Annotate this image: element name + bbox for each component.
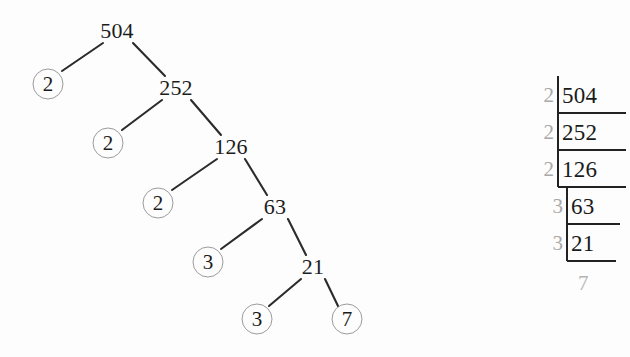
ladder-row: 363 [530,187,630,224]
prime-leaf-2: 2 [33,69,64,100]
tree-edge [325,279,338,306]
ladder-dividend: 252 [562,120,597,143]
tree-node-504: 504 [100,20,134,42]
tree-edge [221,219,262,249]
ladder-divisor: 2 [544,121,555,142]
tree-edge [122,100,162,130]
tree-edge [62,43,103,71]
prime-leaf-label: 3 [252,309,263,330]
tree-edge [133,43,165,76]
ladder-divisor: 3 [553,195,564,216]
ladder-divisor: 2 [544,158,555,179]
ladder-dividend: 126 [562,157,597,180]
tree-node-21: 21 [302,256,324,278]
ladder-row: 2504 [530,76,630,113]
prime-leaf-label: 2 [153,193,164,214]
ladder-dividend: 21 [571,231,595,254]
prime-leaf-label: 2 [43,74,54,95]
tree-node-63: 63 [264,196,286,218]
tree-edge [172,159,217,190]
prime-leaf-label: 7 [342,309,353,330]
tree-node-126: 126 [214,136,248,158]
ladder-dividend: 63 [571,194,595,217]
division-ladder: 2504225221263633217 [530,76,630,316]
tree-node-252: 252 [159,77,193,99]
ladder-final-quotient: 7 [578,273,589,294]
prime-leaf-3: 3 [242,304,273,335]
ladder-divisor: 2 [544,84,555,105]
ladder-row: 321 [530,224,630,261]
ladder-divisor: 3 [553,232,564,253]
tree-edge [191,100,221,135]
tree-edge [288,219,306,255]
tree-edge [269,279,301,306]
prime-leaf-label: 2 [103,133,114,154]
prime-leaf-7: 7 [332,304,363,335]
prime-leaf-2: 2 [93,128,124,159]
prime-leaf-label: 3 [203,252,214,273]
tree-edge [245,159,267,195]
ladder-row: 2252 [530,113,630,150]
ladder-row: 2126 [530,150,630,187]
prime-leaf-2: 2 [143,188,174,219]
prime-leaf-3: 3 [193,247,224,278]
ladder-dividend: 504 [562,83,597,106]
